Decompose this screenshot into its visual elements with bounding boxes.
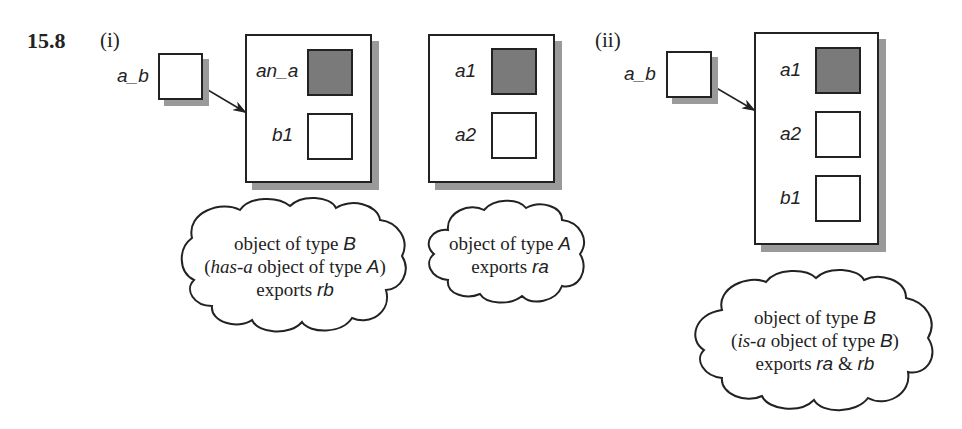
slot-a1-ii — [815, 47, 861, 94]
slot-a1 — [491, 48, 537, 95]
slot-label-an_a: an_a — [256, 60, 298, 82]
slot-an_a — [307, 49, 353, 96]
slot-b1-ii — [815, 175, 861, 222]
pointer-label-ii: a_b — [624, 63, 656, 85]
slot-label-a2-ii: a2 — [780, 123, 801, 145]
slot-a2 — [491, 112, 537, 159]
slot-label-b1-ii: b1 — [780, 187, 801, 209]
cloud-ii-text: object of type B (is-a object of type B)… — [710, 306, 920, 375]
slot-label-a1-ii: a1 — [780, 59, 801, 81]
pointer-box-ii — [666, 51, 712, 98]
pointer-label-i: a_b — [117, 65, 149, 87]
cloud-a-text: object of type A exports ra — [436, 232, 584, 278]
cloud-i-text: object of type B (has-a object of type A… — [195, 232, 395, 301]
slot-a2-ii — [815, 111, 861, 158]
slot-b1 — [307, 113, 353, 160]
slot-label-b1: b1 — [272, 124, 293, 146]
slot-label-a1: a1 — [455, 60, 476, 82]
slot-label-a2: a2 — [455, 124, 476, 146]
pointer-box-i — [158, 53, 203, 100]
